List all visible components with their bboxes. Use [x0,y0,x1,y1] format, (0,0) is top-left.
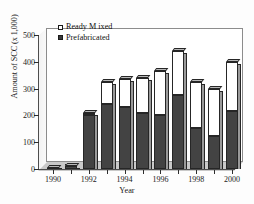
x-tick [71,170,72,174]
y-tick-label: 100 [23,138,35,147]
y-tick-label: 400 [23,57,35,66]
y-tick-label: 300 [23,84,35,93]
y-tick-label: 200 [23,111,35,120]
bar-1995[interactable] [136,78,148,169]
x-tick-label: 2000 [224,175,240,184]
bar-segment-ready-mixed[interactable] [172,51,184,95]
bar-1992[interactable] [83,113,95,169]
bar-top-face [83,110,98,113]
bar-segment-prefabricated[interactable] [172,95,184,169]
bar-segment-ready-mixed[interactable] [154,71,166,114]
legend-swatch-icon [58,25,63,30]
bar-top-face [47,165,62,168]
bar-segment-ready-mixed[interactable] [136,78,148,113]
x-axis-line [38,169,235,170]
legend-label: Prefabricated [66,33,110,44]
x-tick [160,170,161,174]
bar-segment-ready-mixed[interactable] [101,82,113,104]
x-tick [107,170,108,174]
bar-segment-prefabricated[interactable] [136,113,148,169]
bar-1998[interactable] [190,82,202,169]
bar-segment-prefabricated[interactable] [83,115,95,169]
bar-top-face [208,86,223,89]
x-tick-label: 1998 [188,175,204,184]
x-tick-label: 1996 [152,175,168,184]
x-tick [178,170,179,174]
bar-side-face [149,80,152,169]
x-axis-title: Year [0,186,254,195]
x-tick [232,170,233,174]
bar-segment-ready-mixed[interactable] [208,89,220,135]
bar-segment-prefabricated[interactable] [154,115,166,169]
bar-segment-prefabricated[interactable] [208,136,220,170]
y-axis-title: Amount of SCC (x 1,000) [10,0,19,117]
chart-figure: Amount of SCC (x 1,000) Year 01002003004… [0,0,254,204]
bar-top-face [226,59,241,62]
x-tick [143,170,144,174]
bar-segment-prefabricated[interactable] [226,111,238,169]
bar-segment-ready-mixed[interactable] [190,82,202,128]
x-tick [89,170,90,174]
bar-segment-prefabricated[interactable] [65,166,77,169]
bar-1997[interactable] [172,51,184,169]
bar-segment-prefabricated[interactable] [119,107,131,169]
bar-segment-ready-mixed[interactable] [226,62,238,112]
bar-side-face [184,53,187,169]
x-tick-label: 1992 [81,175,97,184]
bar-1993[interactable] [101,82,113,169]
bar-1999[interactable] [208,89,220,169]
x-tick [214,170,215,174]
bar-1990[interactable] [47,168,59,169]
bar-segment-ready-mixed[interactable] [83,113,95,116]
bar-side-face [77,168,80,169]
legend-label: Ready M ixed [66,22,112,33]
y-axis-line [38,36,39,170]
x-tick [196,170,197,174]
bar-1991[interactable] [65,166,77,169]
bar-2000[interactable] [226,62,238,169]
bar-top-face [190,79,205,82]
bar-side-face [238,64,241,169]
plot-area: 0100200300400500 19901992199419961998200… [38,28,243,170]
bar-top-face [101,79,116,82]
bar-side-face [220,91,223,169]
y-tick-label: 500 [23,31,35,40]
legend-swatch-icon [58,35,63,40]
bar-1996[interactable] [154,71,166,169]
bar-side-face [131,81,134,169]
x-tick-label: 1994 [117,175,133,184]
bar-side-face [59,168,62,169]
chart-legend: Ready M ixedPrefabricated [58,22,112,43]
bar-segment-ready-mixed[interactable] [119,79,131,107]
bar-side-face [202,84,205,169]
bar-1994[interactable] [119,79,131,169]
x-tick [125,170,126,174]
bar-top-face [65,163,80,166]
bar-segment-prefabricated[interactable] [101,104,113,169]
bar-side-face [113,84,116,169]
bar-side-face [166,73,169,169]
legend-item-2[interactable]: Prefabricated [58,33,112,44]
bar-segment-prefabricated[interactable] [190,128,202,169]
bar-top-face [119,76,134,79]
x-tick [53,170,54,174]
y-tick-label: 0 [31,165,35,174]
x-tick-label: 1990 [45,175,61,184]
legend-item-1[interactable]: Ready M ixed [58,22,112,33]
bar-side-face [95,115,98,169]
